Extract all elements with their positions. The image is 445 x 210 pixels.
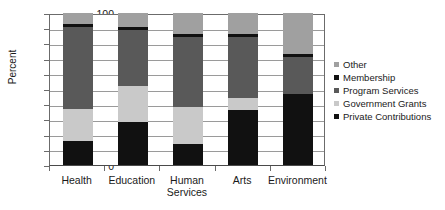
bar-segment <box>283 57 313 93</box>
legend: OtherMembershipProgram ServicesGovernmen… <box>334 58 444 123</box>
bar-segment <box>118 13 148 27</box>
x-axis-tick-mark <box>270 166 271 171</box>
plot-area <box>49 14 325 166</box>
bar-health <box>63 13 93 165</box>
legend-label: Program Services <box>343 85 419 96</box>
legend-item: Private Contributions <box>334 110 444 122</box>
bar-segment <box>63 27 93 109</box>
bar-human-services <box>173 13 203 165</box>
x-axis-tick-label-line: Environment <box>254 174 340 186</box>
bar-segment <box>118 27 148 30</box>
x-axis-tick-label: Environment <box>254 174 340 186</box>
bar-segment <box>173 13 203 34</box>
y-axis-title: Percent <box>6 32 20 102</box>
bar-segment <box>228 13 258 34</box>
bar-segment <box>63 13 93 24</box>
legend-label: Other <box>343 59 367 70</box>
legend-swatch-icon <box>334 114 339 119</box>
x-axis-tick-mark <box>325 166 326 171</box>
bar-segment <box>228 34 258 37</box>
legend-item: Government Grants <box>334 97 444 109</box>
bar-segment <box>283 13 313 54</box>
bar-segment <box>173 34 203 37</box>
legend-swatch-icon <box>334 88 339 93</box>
bar-segment <box>228 98 258 110</box>
bar-segment <box>63 109 93 141</box>
legend-swatch-icon <box>334 101 339 106</box>
legend-item: Other <box>334 58 444 70</box>
bar-segment <box>283 54 313 57</box>
bar-segment <box>63 141 93 165</box>
x-axis-tick-mark <box>49 166 50 171</box>
legend-swatch-icon <box>334 75 339 80</box>
bar-education <box>118 13 148 165</box>
bar-segment <box>118 86 148 122</box>
stacked-bar-chart: Percent 0102030405060708090100 HealthEdu… <box>0 0 445 210</box>
legend-label: Private Contributions <box>343 111 431 122</box>
legend-item: Program Services <box>334 84 444 96</box>
bar-segment <box>228 110 258 165</box>
bar-segment <box>173 107 203 143</box>
bar-segment <box>173 144 203 165</box>
bar-environment <box>283 13 313 165</box>
x-axis-tick-mark <box>215 166 216 171</box>
bar-arts <box>228 13 258 165</box>
bar-segment <box>228 37 258 98</box>
legend-item: Membership <box>334 71 444 83</box>
x-axis-tick-mark <box>159 166 160 171</box>
x-axis-tick-mark <box>104 166 105 171</box>
legend-label: Government Grants <box>343 98 426 109</box>
bar-segment <box>173 37 203 107</box>
bar-segment <box>63 24 93 27</box>
legend-label: Membership <box>343 72 395 83</box>
legend-swatch-icon <box>334 62 339 67</box>
bar-segment <box>283 94 313 165</box>
bar-segment <box>118 30 148 86</box>
bar-segment <box>118 122 148 165</box>
x-axis-tick-label-line: Services <box>144 186 230 198</box>
